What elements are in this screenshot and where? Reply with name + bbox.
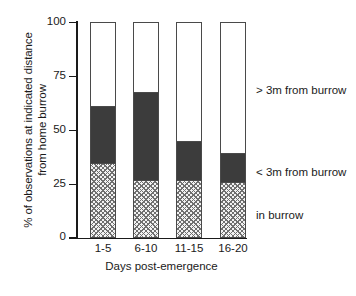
y-tick-label-75: 75 [34,69,66,81]
bar-16-20[interactable] [220,22,246,238]
y-tick-label-50: 50 [34,123,66,135]
y-tick-100 [69,22,76,24]
y-tick-25 [69,184,76,186]
bar-16-20-segment-in-burrow [221,182,245,237]
legend-label-over-3m: > 3m from burrow [256,84,346,96]
bar-11-15-segment-over-3m [177,23,201,142]
bar-1-5-segment-in-burrow [91,163,115,238]
bar-6-10-segment-in-burrow [134,180,158,237]
bar-11-15[interactable] [176,22,202,238]
bar-6-10-segment-over-3m [134,23,158,92]
bar-1-5[interactable] [90,22,116,238]
bar-1-5-segment-under-3m [91,106,115,163]
bar-16-20-segment-over-3m [221,23,245,154]
y-axis-title-line-1: % of observations at indicated distance [21,25,35,235]
x-axis-line [76,238,247,240]
bar-1-5-segment-over-3m [91,23,115,106]
bar-11-15-segment-in-burrow [177,180,201,237]
y-tick-label-100: 100 [34,15,66,27]
x-tick-label-16-20: 16-20 [207,242,259,254]
bar-6-10[interactable] [133,22,159,238]
y-tick-label-25: 25 [34,177,66,189]
y-tick-75 [69,76,76,78]
y-tick-0 [69,237,76,239]
bar-16-20-segment-under-3m [221,153,245,182]
x-axis-title: Days post-emergence [76,260,247,272]
y-axis-line [76,21,78,239]
y-tick-label-0: 0 [34,230,66,242]
y-tick-50 [69,130,76,132]
stacked-bar-chart: % of observations at indicated distance … [0,0,356,296]
legend-label-under-3m: < 3m from burrow [256,166,346,178]
legend-label-in-burrow: in burrow [256,209,303,221]
bar-6-10-segment-under-3m [134,92,158,181]
bar-11-15-segment-under-3m [177,141,201,180]
